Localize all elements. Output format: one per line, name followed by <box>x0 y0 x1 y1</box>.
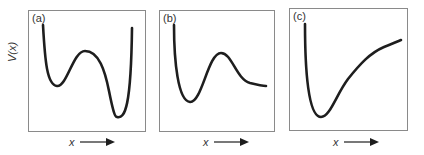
x-axis-label-a: x <box>69 135 75 149</box>
x-axis-c: x <box>333 135 380 149</box>
x-axis-label-c: x <box>333 135 339 149</box>
x-axis-a: x <box>69 135 116 149</box>
panel-a-curve <box>29 11 147 133</box>
x-axis-b: x <box>203 135 250 149</box>
potential-energy-figure: V(x) (a) (b) (c) x x x <box>0 0 424 155</box>
panel-b-curve <box>160 11 276 133</box>
right-arrow-icon <box>80 137 116 147</box>
panel-c-curve <box>290 9 409 132</box>
y-axis-label: V(x) <box>5 32 19 62</box>
panel-b: (b) <box>159 10 275 132</box>
right-arrow-icon <box>344 137 380 147</box>
right-arrow-icon <box>214 137 250 147</box>
x-axis-label-b: x <box>203 135 209 149</box>
panel-a: (a) <box>28 10 146 132</box>
panel-c: (c) <box>289 8 408 131</box>
